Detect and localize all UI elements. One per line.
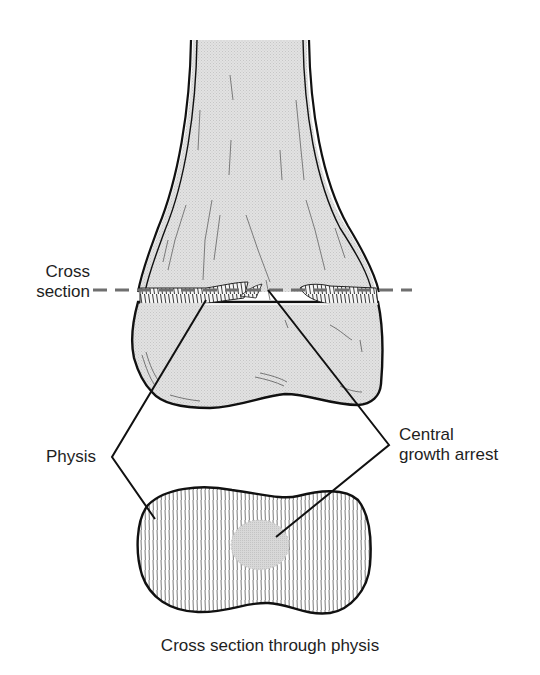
central-growth-arrest-label: Central growth arrest — [399, 425, 498, 465]
cross-section-label-line2: section — [32, 282, 90, 302]
femur-diagram — [0, 0, 540, 675]
epiphysis — [132, 302, 382, 408]
growth-arrest-label-line1: Central — [399, 425, 498, 445]
growth-arrest-label-line2: growth arrest — [399, 445, 498, 465]
central-arrest-zone — [231, 520, 289, 570]
cross-section-label: Cross section — [32, 262, 90, 302]
figure-caption: Cross section through physis — [0, 636, 540, 656]
physis-label: Physis — [46, 447, 96, 467]
cross-section-label-line1: Cross — [32, 262, 90, 282]
femur-diaphysis — [138, 40, 379, 292]
